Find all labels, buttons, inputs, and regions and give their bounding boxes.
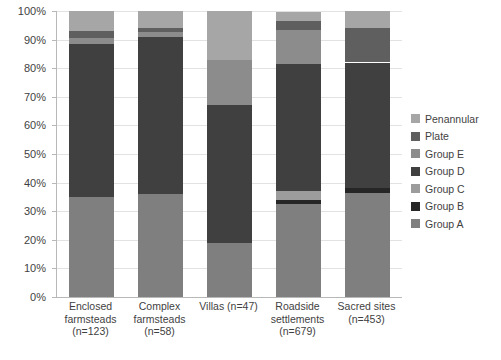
legend-swatch-icon [411, 149, 420, 158]
bar-segment[interactable] [138, 32, 183, 36]
x-axis-label-line: Villas (n=47) [194, 300, 263, 313]
y-axis-tick-label: 70% [24, 91, 46, 103]
chart-root: 0%10%20%30%40%50%60%70%80%90%100% Enclos… [0, 0, 501, 360]
legend-swatch-icon [411, 184, 420, 193]
bar-segment[interactable] [69, 44, 114, 197]
x-axis-label-line: (n=453) [332, 313, 401, 326]
x-axis-label-line: (n=123) [56, 325, 125, 338]
plot-area [56, 11, 402, 298]
bar-segment[interactable] [138, 28, 183, 32]
legend-label: Group A [425, 218, 464, 230]
stacked-bar[interactable] [69, 11, 114, 297]
legend-swatch-icon [411, 114, 420, 123]
bar-group [126, 11, 195, 297]
legend-item[interactable]: Group A [411, 215, 497, 233]
stacked-bar[interactable] [207, 11, 252, 297]
bar-segment[interactable] [276, 12, 321, 21]
bar-segment[interactable] [207, 105, 252, 242]
bar-segment[interactable] [345, 188, 390, 192]
x-axis-label-line: (n=58) [125, 325, 194, 338]
bar-segment[interactable] [345, 11, 390, 28]
bar-group [57, 11, 126, 297]
bar-segment[interactable] [69, 31, 114, 38]
bar-segment[interactable] [138, 194, 183, 297]
x-axis-category-label: Complexfarmsteads(n=58) [125, 300, 194, 338]
legend-swatch-icon [411, 132, 420, 141]
bar-segment[interactable] [276, 204, 321, 297]
bars-layer [57, 11, 402, 297]
y-axis-tick-label: 0% [30, 291, 46, 303]
x-axis-label-line: farmsteads [56, 313, 125, 326]
bar-segment[interactable] [138, 11, 183, 28]
bar-segment[interactable] [69, 11, 114, 31]
y-axis-tick-label: 20% [24, 234, 46, 246]
y-axis-tick-label: 80% [24, 62, 46, 74]
legend-label: Penannular [425, 113, 479, 125]
y-axis-tick-label: 10% [24, 262, 46, 274]
legend-swatch-icon [411, 167, 420, 176]
bar-group [333, 11, 402, 297]
x-axis-label-line: settlements [263, 313, 332, 326]
bar-segment[interactable] [276, 30, 321, 64]
bar-segment[interactable] [138, 37, 183, 194]
legend-swatch-icon [411, 202, 420, 211]
x-axis-label-line: (n=679) [263, 325, 332, 338]
legend-label: Group E [425, 148, 464, 160]
x-axis-label-line: Enclosed [56, 300, 125, 313]
legend-item[interactable]: Group E [411, 145, 497, 163]
legend-item[interactable]: Group C [411, 180, 497, 198]
bar-segment[interactable] [207, 11, 252, 60]
legend-swatch-icon [411, 219, 420, 228]
bar-segment[interactable] [207, 60, 252, 106]
x-axis-labels: Enclosedfarmsteads(n=123)Complexfarmstea… [56, 300, 401, 358]
legend-item[interactable]: Penannular [411, 110, 497, 128]
y-axis-tick-label: 40% [24, 177, 46, 189]
legend-label: Plate [425, 130, 449, 142]
bar-segment[interactable] [276, 200, 321, 204]
bar-segment[interactable] [345, 28, 390, 62]
bar-segment[interactable] [69, 197, 114, 297]
y-axis-tick-label: 90% [24, 34, 46, 46]
y-axis-tick-label: 50% [24, 148, 46, 160]
stacked-bar[interactable] [138, 11, 183, 297]
y-axis: 0%10%20%30%40%50%60%70%80%90%100% [0, 11, 52, 297]
x-axis-category-label: Sacred sites(n=453) [332, 300, 401, 325]
stacked-bar[interactable] [345, 11, 390, 297]
legend-label: Group C [425, 183, 465, 195]
bar-group [264, 11, 333, 297]
bar-segment[interactable] [276, 21, 321, 30]
x-axis-label-line: farmsteads [125, 313, 194, 326]
bar-segment[interactable] [276, 64, 321, 191]
legend: PenannularPlateGroup EGroup DGroup CGrou… [411, 110, 497, 233]
legend-item[interactable]: Group B [411, 198, 497, 216]
y-axis-tick-label: 60% [24, 119, 46, 131]
bar-group [195, 11, 264, 297]
legend-item[interactable]: Group D [411, 163, 497, 181]
stacked-bar[interactable] [276, 11, 321, 297]
bar-segment[interactable] [345, 193, 390, 297]
x-axis-category-label: Enclosedfarmsteads(n=123) [56, 300, 125, 338]
legend-item[interactable]: Plate [411, 128, 497, 146]
bar-segment[interactable] [69, 38, 114, 44]
x-axis-label-line: Roadside [263, 300, 332, 313]
bar-segment[interactable] [207, 243, 252, 297]
y-axis-tick-label: 30% [24, 205, 46, 217]
bar-segment[interactable] [276, 191, 321, 200]
x-axis-category-label: Villas (n=47) [194, 300, 263, 313]
legend-label: Group D [425, 165, 465, 177]
x-axis-label-line: Sacred sites [332, 300, 401, 313]
bar-segment[interactable] [345, 63, 390, 189]
legend-label: Group B [425, 200, 464, 212]
y-axis-tick-label: 100% [18, 5, 46, 17]
x-axis-label-line: Complex [125, 300, 194, 313]
x-axis-category-label: Roadsidesettlements(n=679) [263, 300, 332, 338]
